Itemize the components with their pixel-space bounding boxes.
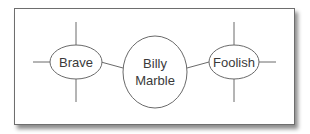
center-label-line2: Marble	[135, 73, 175, 88]
center-label-line1: Billy	[143, 56, 167, 71]
spider-diagram: Brave Billy Marble Foolish	[0, 0, 310, 134]
foolish-label: Foolish	[213, 55, 255, 70]
connector-brave-center	[101, 62, 123, 68]
center-node	[123, 36, 187, 108]
connector-center-foolish	[187, 62, 209, 68]
brave-label: Brave	[59, 55, 93, 70]
